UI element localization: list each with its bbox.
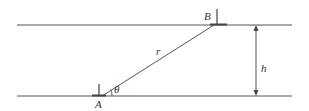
angle-arc-icon [111,90,113,97]
label-r: r [156,45,161,57]
label-a: A [94,98,102,110]
diagram-canvas: B A r h θ [0,0,309,111]
label-b: B [204,10,211,22]
point-b-marker [210,9,227,25]
point-a-marker [92,84,106,96]
label-theta: θ [114,83,120,95]
height-arrow [254,25,259,96]
label-h: h [261,62,267,74]
